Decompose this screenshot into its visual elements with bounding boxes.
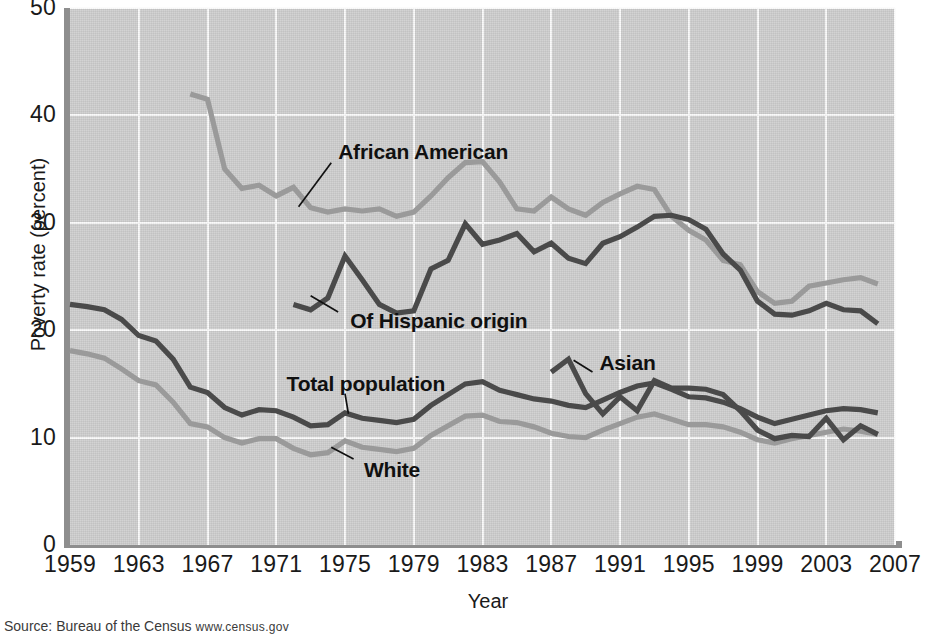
x-tick-2003: 2003 bbox=[791, 553, 861, 576]
x-tick-1959: 1959 bbox=[35, 553, 105, 576]
x-tick-1999: 1999 bbox=[723, 553, 793, 576]
annotation-total-population: Total population bbox=[287, 372, 446, 396]
leader-line-white bbox=[331, 447, 353, 459]
source-prefix: Source: Bureau of the Census bbox=[4, 618, 195, 634]
source-url: www.census.gov bbox=[195, 620, 289, 634]
x-tick-1967: 1967 bbox=[173, 553, 243, 576]
x-tick-1963: 1963 bbox=[104, 553, 174, 576]
x-tick-1971: 1971 bbox=[241, 553, 311, 576]
x-tick-1975: 1975 bbox=[310, 553, 380, 576]
x-tick-1979: 1979 bbox=[379, 553, 449, 576]
x-axis-title: Year bbox=[408, 590, 568, 613]
y-tick-50: 50 bbox=[4, 0, 56, 19]
annotation-of-hispanic-origin: Of Hispanic origin bbox=[350, 309, 527, 333]
leader-line-of-hispanic-origin bbox=[311, 296, 339, 312]
x-tick-1983: 1983 bbox=[448, 553, 518, 576]
y-axis-title: Poverty rate (percent) bbox=[27, 105, 50, 405]
x-tick-1995: 1995 bbox=[654, 553, 724, 576]
x-tick-2007: 2007 bbox=[860, 553, 925, 576]
x-tick-1991: 1991 bbox=[585, 553, 655, 576]
x-tick-1987: 1987 bbox=[516, 553, 586, 576]
annotation-asian: Asian bbox=[599, 351, 655, 375]
leader-line-african-american bbox=[299, 163, 332, 207]
annotation-leader-lines bbox=[70, 8, 895, 545]
source-note: Source: Bureau of the Census www.census.… bbox=[4, 618, 289, 634]
plot-area: African AmericanOf Hispanic originTotal … bbox=[70, 8, 895, 545]
annotation-african-american: African American bbox=[338, 140, 508, 164]
leader-line-asian bbox=[574, 360, 593, 372]
y-tick-10: 10 bbox=[4, 426, 56, 449]
leader-line-total-population bbox=[345, 394, 348, 414]
annotation-white: White bbox=[364, 458, 420, 482]
